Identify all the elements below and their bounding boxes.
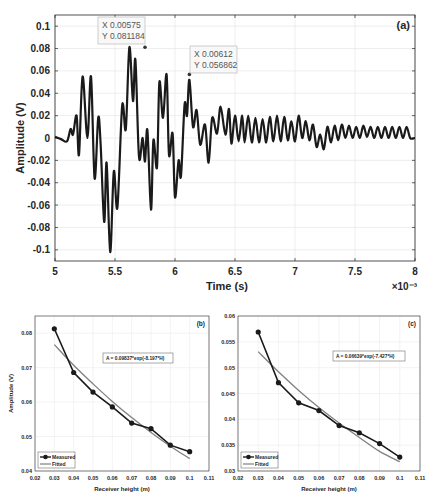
y-tick-label: 0.08 [21, 330, 32, 336]
panel-label: (b) [197, 320, 205, 328]
measured-marker [110, 404, 115, 409]
datatip-y: Y 0.081184 [102, 31, 145, 41]
datatip-x: X 0.00575 [102, 20, 141, 30]
measured-marker [71, 370, 76, 375]
x-tick-label: 0.04 [273, 475, 285, 481]
y-axis-label: Amplitude (V) [14, 102, 26, 174]
y-tick-label: 0.06 [21, 399, 32, 405]
measured-marker [397, 454, 402, 459]
y-tick-label: 0.02 [31, 110, 51, 121]
y-tick-label: -0.08 [27, 222, 50, 233]
x-tick-label: 0.06 [107, 475, 118, 481]
figure: 55.566.577.580.10.080.060.040.020-0.02-0… [0, 0, 440, 503]
legend: MeasuredFitted [38, 452, 75, 468]
y-tick-label: 0.04 [224, 416, 236, 422]
x-tick-label: 7.5 [348, 266, 362, 277]
y-tick-label: 0.06 [31, 65, 51, 76]
y-tick-label: 0.035 [221, 442, 235, 448]
measured-marker [377, 441, 382, 446]
measured-marker [129, 421, 134, 426]
y-tick-label: -0.04 [27, 177, 50, 188]
measured-marker [187, 449, 192, 454]
measured-marker [316, 408, 321, 413]
x-tick-label: 0.08 [146, 475, 157, 481]
datatip-y: Y 0.056862 [194, 60, 238, 70]
measured-marker [148, 426, 153, 431]
x-tick-label: 0.1 [186, 475, 194, 481]
y-tick-label: 0.05 [21, 434, 32, 440]
y-tick-label: 0.1 [36, 21, 50, 32]
panel-label-a: (a) [397, 19, 411, 31]
x-tick-label: 0.02 [30, 475, 41, 481]
fit-equation: A = 0.06639*exp(-7.427*H) [336, 354, 395, 359]
y-tick-label: -0.02 [27, 155, 50, 166]
x-tick-label: 0.06 [314, 475, 325, 481]
datatip[interactable]: X 0.00575Y 0.081184 [98, 17, 147, 49]
y-tick-label: 0.04 [21, 468, 33, 474]
y-tick-label: 0.045 [221, 391, 235, 397]
measured-marker [90, 390, 95, 395]
x-tick-label: 0.11 [204, 475, 214, 481]
datatip[interactable]: X 0.00612Y 0.056862 [188, 46, 238, 76]
x-tick-label: 7 [292, 266, 298, 277]
measured-marker [168, 443, 173, 448]
measured-marker [276, 380, 281, 385]
y-tick-label: 0.03 [224, 468, 235, 474]
x-tick-label: 0.09 [374, 475, 385, 481]
y-tick-label: 0.055 [221, 339, 235, 345]
panel-b-amplitude-vs-height: 0.020.030.040.050.060.070.080.090.10.110… [8, 316, 214, 492]
datatip-x: X 0.00612 [194, 49, 233, 59]
measured-line [54, 329, 189, 452]
x-axis-label: Time (s) [206, 280, 248, 292]
y-tick-label: -0.06 [27, 200, 50, 211]
x-tick-label: 0.05 [88, 475, 99, 481]
measured-marker [357, 430, 362, 435]
y-tick-label: 0.05 [224, 365, 235, 371]
measured-marker [337, 423, 342, 428]
measured-marker [296, 400, 301, 405]
x-tick-label: 5.5 [108, 266, 122, 277]
legend-fitted: Fitted [255, 461, 269, 467]
y-tick-label: 0.08 [31, 43, 51, 54]
x-tick-label: 0.1 [396, 475, 404, 481]
fit-equation: A = 0.09837*exp(-8.197*H) [106, 356, 165, 361]
panel-label: (c) [408, 320, 416, 328]
legend-measured: Measured [255, 454, 278, 460]
panel-a-waveform: 55.566.577.580.10.080.060.040.020-0.02-0… [14, 15, 418, 292]
measured-marker [256, 329, 261, 334]
x-tick-label: 0.05 [293, 475, 304, 481]
y-tick-label: -0.1 [33, 244, 51, 255]
legend-fitted: Fitted [52, 461, 66, 467]
x-axis-label: Receiver height (m) [94, 486, 150, 492]
fit-equation-box: A = 0.09837*exp(-8.197*H) [103, 353, 173, 363]
x-tick-label: 0.09 [165, 475, 176, 481]
x-exponent-label: ×10⁻³ [392, 281, 418, 292]
axes-box [35, 316, 209, 471]
measured-marker [52, 326, 57, 331]
y-axis-label: Amplitude (V) [8, 374, 14, 413]
x-tick-label: 6.5 [228, 266, 242, 277]
x-axis-label: Receiver height (m) [301, 486, 357, 492]
y-tick-label: 0 [44, 133, 50, 144]
x-tick-label: 0.02 [233, 475, 244, 481]
legend-measured: Measured [52, 454, 75, 460]
x-tick-label: 0.07 [126, 475, 137, 481]
fit-equation-box: A = 0.06639*exp(-7.427*H) [333, 351, 405, 361]
x-tick-label: 0.04 [68, 475, 80, 481]
y-tick-label: 0.04 [31, 88, 51, 99]
x-tick-label: 0.07 [334, 475, 345, 481]
x-tick-label: 0.11 [415, 475, 425, 481]
panel-c-amplitude-vs-height: 0.020.030.040.050.060.070.080.090.10.110… [221, 313, 425, 492]
x-tick-label: 8 [412, 266, 418, 277]
legend: MeasuredFitted [241, 452, 278, 468]
x-tick-label: 6 [172, 266, 178, 277]
x-tick-label: 0.03 [253, 475, 264, 481]
x-tick-label: 0.08 [354, 475, 365, 481]
x-tick-label: 0.03 [49, 475, 60, 481]
x-tick-label: 5 [52, 266, 58, 277]
y-tick-label: 0.07 [21, 365, 32, 371]
y-tick-label: 0.06 [224, 313, 235, 319]
